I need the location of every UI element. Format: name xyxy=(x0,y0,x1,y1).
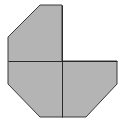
octagon-quadrant-diagram xyxy=(0,0,125,122)
